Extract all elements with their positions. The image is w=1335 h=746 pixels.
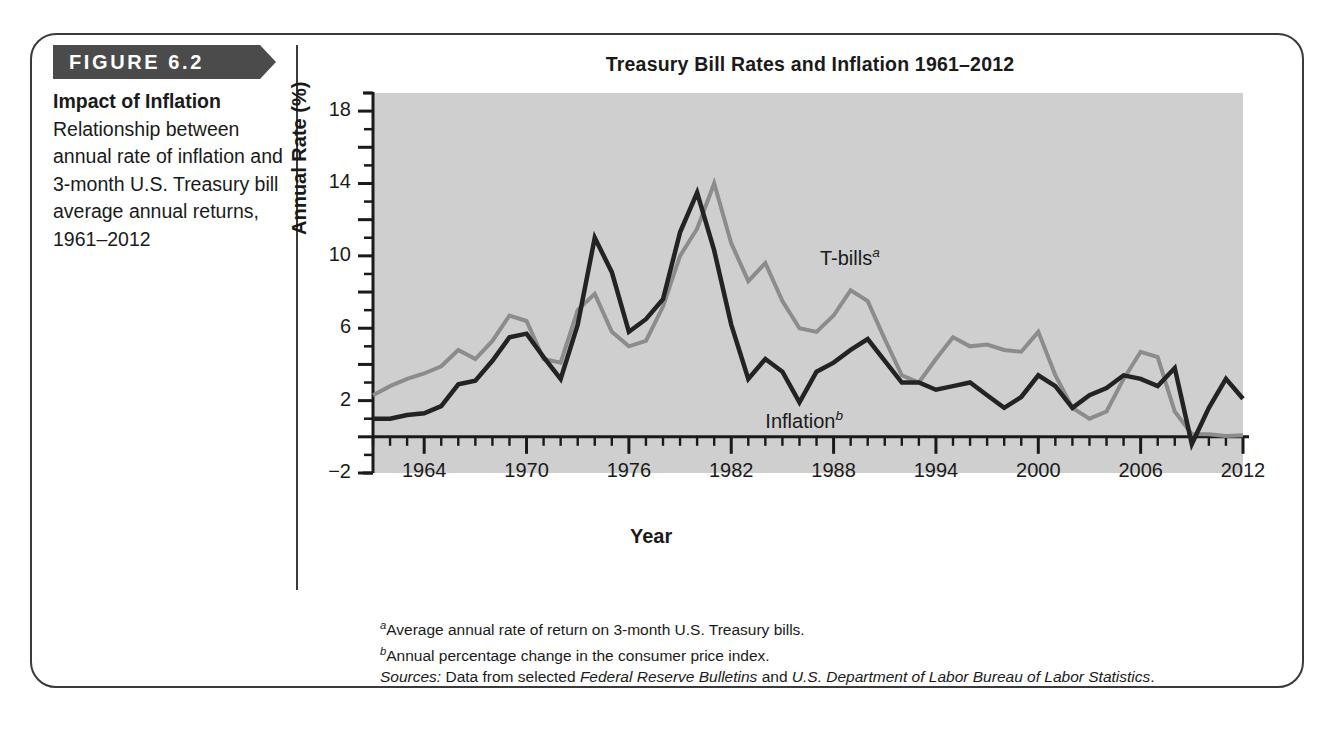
x-tick-label: 1976 <box>594 459 664 482</box>
chart-svg <box>300 85 1260 555</box>
y-tick-label: −2 <box>311 460 351 483</box>
x-tick-label: 2012 <box>1208 459 1278 482</box>
x-tick-label: 1994 <box>901 459 971 482</box>
y-axis-label: Annual Rate (%) <box>288 82 311 235</box>
footnote-a: aAverage annual rate of return on 3-mont… <box>380 615 1250 641</box>
caption-body: Relationship between annual rate of infl… <box>53 118 283 250</box>
figure-number-tag: FIGURE 6.2 <box>53 45 260 79</box>
footnote-a-text: Average annual rate of return on 3-month… <box>386 621 804 638</box>
chart-plot-area: Annual Rate (%) Year 18141062−2196419701… <box>300 85 1260 555</box>
caption-title: Impact of Inflation <box>53 90 221 112</box>
annotation-text: Inflation <box>765 410 835 432</box>
y-tick-label: 18 <box>311 98 351 121</box>
y-tick-label: 10 <box>311 243 351 266</box>
annotation-text: T-bills <box>820 247 872 269</box>
series-annotation-inflation: Inflationb <box>765 408 843 433</box>
figure-number-label: FIGURE 6.2 <box>69 51 204 74</box>
x-tick-label: 1970 <box>492 459 562 482</box>
sources-italic-1: Federal Reserve Bulletins <box>580 668 757 685</box>
figure-footnotes: aAverage annual rate of return on 3-mont… <box>380 615 1250 688</box>
chart-title: Treasury Bill Rates and Inflation 1961–2… <box>380 53 1240 76</box>
x-tick-label: 2000 <box>1003 459 1073 482</box>
y-tick-label: 6 <box>311 315 351 338</box>
y-tick-label: 2 <box>311 388 351 411</box>
footnote-sources: Sources: Data from selected Federal Rese… <box>380 666 1250 688</box>
x-tick-label: 1964 <box>389 459 459 482</box>
footnote-b: bAnnual percentage change in the consume… <box>380 641 1250 667</box>
footnote-b-text: Annual percentage change in the consumer… <box>386 647 769 664</box>
annotation-footnote-marker: b <box>835 408 843 423</box>
y-tick-label: 14 <box>311 170 351 193</box>
x-tick-label: 2006 <box>1106 459 1176 482</box>
x-tick-label: 1988 <box>799 459 869 482</box>
sources-label: Sources: <box>380 668 441 685</box>
sources-end: . <box>1150 668 1154 685</box>
sources-italic-2: U.S. Department of Labor Bureau of Labor… <box>792 668 1150 685</box>
figure-caption: Impact of Inflation Relationship between… <box>53 88 285 253</box>
x-tick-label: 1982 <box>696 459 766 482</box>
x-axis-label: Year <box>630 525 672 548</box>
sources-mid: and <box>757 668 791 685</box>
series-annotation-tbills: T-billsa <box>820 245 880 270</box>
figure-tag-arrow-icon <box>260 45 276 79</box>
annotation-footnote-marker: a <box>872 245 880 260</box>
sources-pre: Data from selected <box>441 668 580 685</box>
